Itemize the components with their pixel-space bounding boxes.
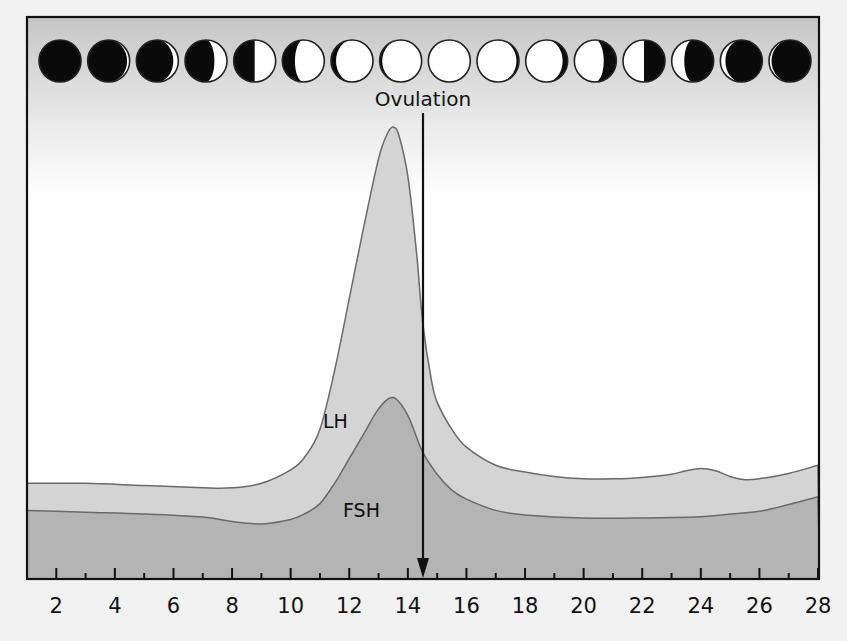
x-tick-label: 14 xyxy=(394,594,421,618)
moon-full-icon xyxy=(428,40,470,82)
hormone-cycle-chart: LH FSH Ovulation 24681012141618202224262… xyxy=(0,0,847,641)
moon-waxing-gibbous-icon xyxy=(380,40,422,82)
moon-waxing-gibbous-icon xyxy=(282,40,324,82)
x-tick-label: 10 xyxy=(277,594,304,618)
x-tick-label: 26 xyxy=(746,594,773,618)
ovulation-label: Ovulation xyxy=(375,87,471,111)
x-tick-label: 20 xyxy=(570,594,597,618)
moon-waxing-crescent-icon xyxy=(136,40,178,82)
x-tick-label: 12 xyxy=(336,594,363,618)
x-tick-label: 16 xyxy=(453,594,480,618)
moon-waxing-crescent-icon xyxy=(185,40,227,82)
moon-waning-crescent-icon xyxy=(769,40,811,82)
moon-first-quarter-icon xyxy=(234,40,276,82)
chart-canvas: LH FSH Ovulation 24681012141618202224262… xyxy=(0,0,847,641)
moon-waning-gibbous-icon xyxy=(526,40,568,82)
x-tick-label: 2 xyxy=(50,594,63,618)
moon-waning-crescent-icon xyxy=(720,40,762,82)
moon-waxing-gibbous-icon xyxy=(331,40,373,82)
moon-waning-gibbous-icon xyxy=(477,40,519,82)
x-tick-label: 8 xyxy=(225,594,238,618)
moon-waning-gibbous-icon xyxy=(574,40,616,82)
x-tick-label: 6 xyxy=(167,594,180,618)
x-tick-label: 22 xyxy=(629,594,656,618)
moon-last-quarter-icon xyxy=(623,40,665,82)
moon-waxing-crescent-icon xyxy=(88,40,130,82)
moon-waning-crescent-icon xyxy=(672,40,714,82)
moon-new-icon xyxy=(39,40,81,82)
x-tick-label: 28 xyxy=(805,594,832,618)
x-tick-label: 4 xyxy=(108,594,121,618)
x-tick-label: 24 xyxy=(687,594,714,618)
fsh-label: FSH xyxy=(343,499,380,521)
lh-label: LH xyxy=(323,410,348,432)
x-tick-label: 18 xyxy=(512,594,539,618)
